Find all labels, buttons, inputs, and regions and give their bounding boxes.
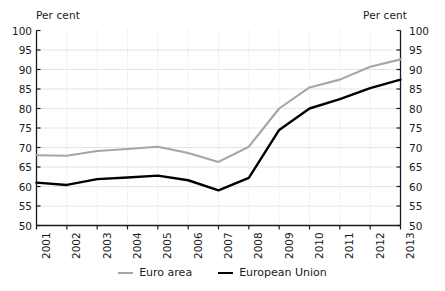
y-tick-label-left-60: 60 xyxy=(8,181,32,192)
y-tick-label-right-70: 70 xyxy=(409,142,433,153)
series-line-euro-area xyxy=(37,59,401,162)
y-tick-label-left-95: 95 xyxy=(8,45,32,56)
legend-swatch-icon-euro-area xyxy=(118,272,133,274)
legend-item-euro-area: Euro area xyxy=(118,266,192,279)
y-tick-label-right-65: 65 xyxy=(409,162,433,173)
y-tick-label-right-80: 80 xyxy=(409,103,433,114)
y-tick-label-left-55: 55 xyxy=(8,201,32,212)
y-tick-label-right-60: 60 xyxy=(409,181,433,192)
y-tick-label-left-80: 80 xyxy=(8,103,32,114)
x-tick-label-2011: 2011 xyxy=(344,232,355,259)
x-tick-label-2008: 2008 xyxy=(253,232,264,259)
x-tick-label-2007: 2007 xyxy=(223,232,234,259)
chart-legend: Euro area European Union xyxy=(0,266,445,279)
y-tick-label-right-75: 75 xyxy=(409,123,433,134)
y-tick-label-right-85: 85 xyxy=(409,84,433,95)
y-tick-label-left-50: 50 xyxy=(8,220,32,231)
legend-label-euro-area: Euro area xyxy=(139,266,192,279)
x-tick-label-2010: 2010 xyxy=(314,232,325,259)
y-tick-label-left-75: 75 xyxy=(8,123,32,134)
x-tick-label-2005: 2005 xyxy=(162,232,173,259)
x-tick-label-2004: 2004 xyxy=(132,232,143,259)
y-tick-label-left-70: 70 xyxy=(8,142,32,153)
legend-swatch-icon-european-union xyxy=(218,272,233,274)
legend-item-european-union: European Union xyxy=(218,266,327,279)
y-tick-label-right-100: 100 xyxy=(409,25,433,36)
y-tick-label-left-100: 100 xyxy=(8,25,32,36)
x-tick-label-2009: 2009 xyxy=(284,232,295,259)
y-tick-label-right-50: 50 xyxy=(409,220,433,231)
y-tick-label-right-90: 90 xyxy=(409,64,433,75)
y-tick-label-right-95: 95 xyxy=(409,45,433,56)
legend-label-european-union: European Union xyxy=(239,266,327,279)
x-tick-label-2001: 2001 xyxy=(41,232,52,259)
y-tick-label-left-65: 65 xyxy=(8,162,32,173)
y-tick-label-right-55: 55 xyxy=(409,201,433,212)
line-chart: Per cent Per cent 1009590858075706560555… xyxy=(0,0,445,291)
x-tick-label-2006: 2006 xyxy=(193,232,204,259)
y-tick-label-left-85: 85 xyxy=(8,84,32,95)
x-tick-label-2012: 2012 xyxy=(375,232,386,259)
series-line-european-union xyxy=(37,80,401,191)
x-tick-label-2013: 2013 xyxy=(405,232,416,259)
x-tick-label-2003: 2003 xyxy=(102,232,113,259)
y-tick-label-left-90: 90 xyxy=(8,64,32,75)
x-tick-label-2002: 2002 xyxy=(71,232,82,259)
